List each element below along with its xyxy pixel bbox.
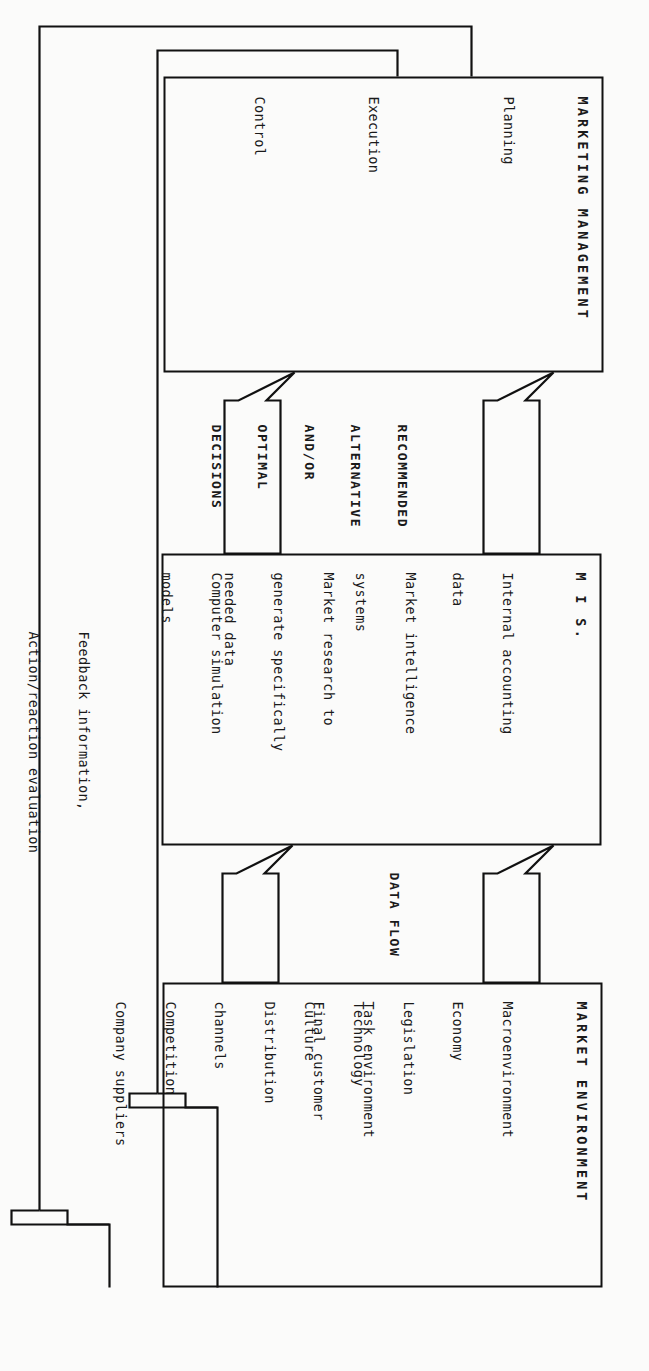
group-planning: Planning — [467, 96, 550, 164]
group-task-environment-item: channels — [211, 1001, 228, 1146]
diagram-canvas: MARKETING MANAGEMENT Planning Execution … — [0, 0, 649, 1371]
group-control: Control — [218, 96, 301, 156]
box-title-mis: M I S. — [572, 572, 588, 641]
arrow-feedback-outer-head-lower — [11, 1210, 109, 1224]
group-computer-simulation: Computer simulation models — [125, 572, 257, 734]
diagram-stage: MARKETING MANAGEMENT Planning Execution … — [0, 0, 649, 1371]
arrow-environment-to-mis-left — [483, 845, 553, 982]
flow-label-recommendations-line: ALTERNATIVE — [347, 424, 363, 528]
arrow-feedback-outer-head — [39, 1210, 109, 1287]
group-macroenvironment-item: Macroenvironment — [499, 1001, 516, 1137]
group-market-intelligence-item: Market intelligence — [402, 572, 419, 734]
group-task-environment-item: Final customer — [310, 1001, 327, 1146]
flow-label-feedback-line: Feedback information, — [75, 631, 92, 853]
group-task-environment-item: Task environment — [360, 1001, 377, 1146]
group-market-research-item: generate specifically — [270, 572, 287, 751]
group-market-research-item: Market research to — [320, 572, 337, 751]
flow-label-feedback-line: Action/reaction evaluation — [25, 631, 42, 853]
group-macroenvironment-item: Economy — [449, 1001, 466, 1137]
group-planning-item: Planning — [500, 96, 517, 164]
group-task-environment-item: Competition — [162, 1001, 179, 1146]
box-title-marketing-management: MARKETING MANAGEMENT — [574, 96, 590, 321]
group-computer-simulation-item: models — [158, 572, 175, 734]
group-execution-item: Execution — [365, 96, 382, 173]
flow-label-recommendations-line: AND/OR — [301, 424, 317, 528]
arrow-environment-to-mis-right — [222, 845, 292, 982]
group-task-environment-item: Distribution — [261, 1001, 278, 1146]
arrow-mis-to-management-left — [483, 372, 553, 553]
box-title-market-environment: MARKET ENVIRONMENT — [573, 1001, 589, 1203]
flow-label-recommendations: RECOMMENDED ALTERNATIVE AND/OR OPTIMAL D… — [177, 424, 441, 528]
group-task-environment-item: Company suppliers — [112, 1001, 129, 1146]
group-computer-simulation-item: Computer simulation — [208, 572, 225, 734]
flow-label-feedback: Feedback information, Action/reaction ev… — [0, 631, 124, 853]
group-internal-accounting-item: Internal accounting — [499, 572, 516, 734]
group-task-environment: Task environment Final customer Distribu… — [79, 1001, 409, 1146]
group-execution: Execution — [332, 96, 415, 173]
flow-label-data-flow: DATA FLOW — [386, 872, 402, 957]
flow-label-recommendations-line: OPTIMAL — [254, 424, 270, 528]
group-control-item: Control — [251, 96, 268, 156]
flow-label-recommendations-line: RECOMMENDED — [394, 424, 410, 528]
flow-label-recommendations-line: DECISIONS — [208, 424, 224, 528]
